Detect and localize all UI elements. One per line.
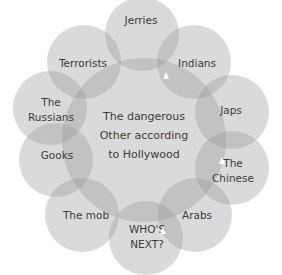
center-label: The dangerousOther accordingto Hollywood (100, 107, 189, 164)
center-label-line: The dangerous (100, 107, 189, 126)
label-indians-line: Indians (178, 56, 216, 71)
label-jerries-line: Jerries (125, 13, 158, 28)
center-label-line: Other according (100, 126, 189, 145)
highlight-mark-icon (160, 227, 166, 234)
label-jerries: Jerries (125, 13, 158, 28)
label-russians-line: The (28, 95, 74, 110)
label-terrorists-line: Terrorists (59, 56, 107, 71)
label-terrorists: Terrorists (59, 56, 107, 71)
label-russians: TheRussians (28, 95, 74, 125)
label-japs-line: Japs (220, 103, 242, 118)
center-label-line: to Hollywood (100, 145, 189, 164)
label-chinese-line: Chinese (212, 171, 254, 186)
label-arabs: Arabs (182, 208, 212, 223)
label-whos-next-line: NEXT? (129, 237, 165, 252)
label-the-mob-line: The mob (63, 208, 109, 223)
label-gooks: Gooks (41, 148, 74, 163)
label-russians-line: Russians (28, 110, 74, 125)
label-japs: Japs (220, 103, 242, 118)
highlight-mark-icon (163, 72, 169, 79)
highlight-mark-icon (186, 4, 192, 11)
label-the-mob: The mob (63, 208, 109, 223)
label-gooks-line: Gooks (41, 148, 74, 163)
label-arabs-line: Arabs (182, 208, 212, 223)
label-indians: Indians (178, 56, 216, 71)
highlight-mark-icon (219, 157, 225, 164)
